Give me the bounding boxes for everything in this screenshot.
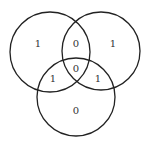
region-right-bottom-label: 1	[95, 73, 101, 84]
region-right-only-label: 1	[110, 38, 116, 49]
venn-diagram: 1 0 1 1 0 1 0	[0, 0, 144, 150]
region-left-bottom-label: 1	[50, 73, 56, 84]
region-left-right-label: 0	[73, 38, 79, 49]
region-left-only-label: 1	[35, 38, 41, 49]
region-all-three-label: 0	[73, 63, 79, 74]
region-bottom-only-label: 0	[73, 105, 79, 116]
